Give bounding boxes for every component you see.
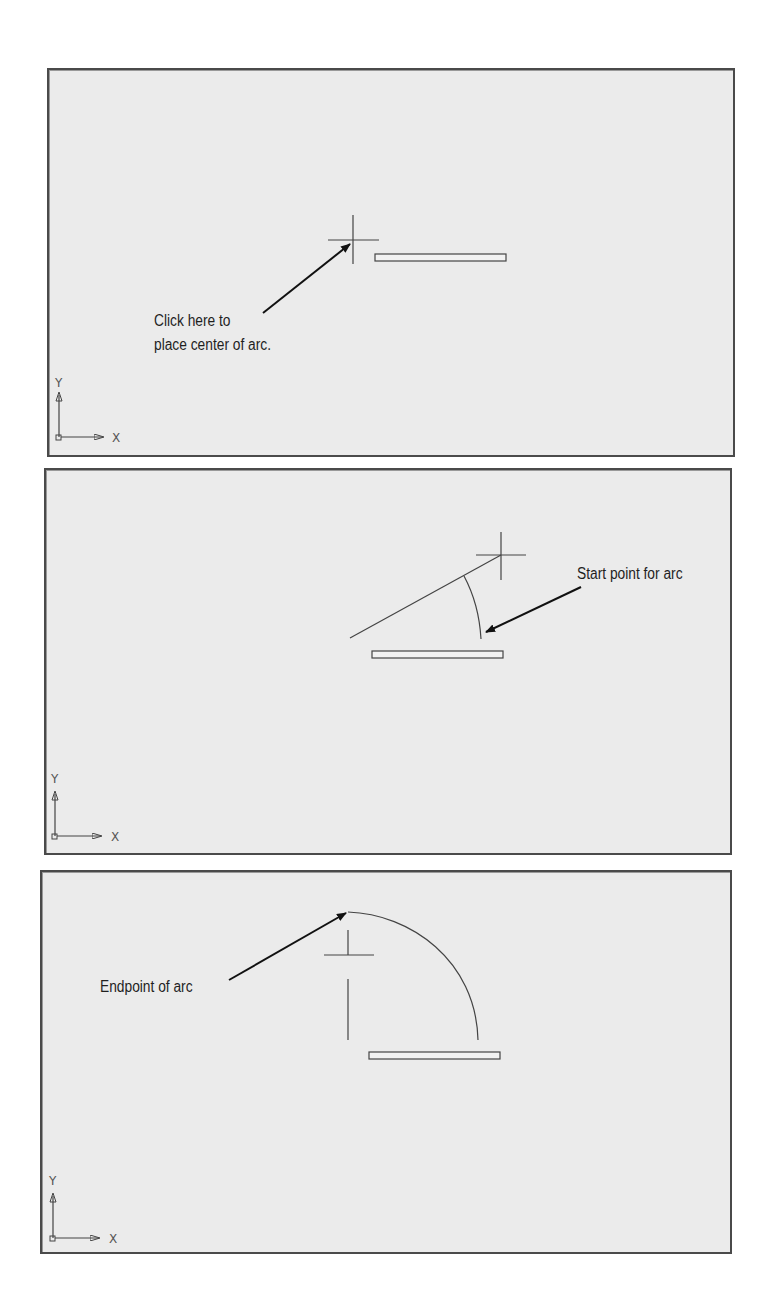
ucs-icon: Y X [50,772,119,844]
crosshair-cursor-icon [324,930,374,1040]
ucs-x-label: X [111,830,119,844]
rectangle-object [372,651,503,658]
caption-start-point: Start point for arc [577,562,683,586]
panel-2-geometry: Y X [50,532,581,844]
rubber-band-line [350,555,501,638]
ucs-icon: Y X [48,1174,117,1246]
crosshair-cursor-icon [476,532,526,580]
callout-arrow [263,244,350,313]
caption-line: Start point for arc [577,562,683,586]
caption-click-here: Click here to place center of arc. [154,309,271,357]
ucs-x-label: X [112,431,120,445]
arc [348,912,478,1040]
ucs-x-label: X [109,1232,117,1246]
ucs-y-label: Y [50,772,59,786]
caption-endpoint: Endpoint of arc [100,975,193,999]
caption-line: place center of arc. [154,333,271,357]
panel-3-geometry: Y X [48,912,500,1246]
rectangle-object [369,1052,500,1059]
drawing-overlay: Y X Y X [0,0,761,1293]
caption-line: Endpoint of arc [100,975,193,999]
panel-1-geometry: Y X [54,215,506,445]
caption-line: Click here to [154,309,271,333]
ucs-icon: Y X [54,376,120,445]
callout-arrow [229,913,346,980]
callout-arrow [486,587,581,632]
rectangle-object [375,254,506,261]
ucs-y-label: Y [48,1174,57,1188]
ucs-y-label: Y [54,376,63,390]
arc-preview [464,576,481,639]
